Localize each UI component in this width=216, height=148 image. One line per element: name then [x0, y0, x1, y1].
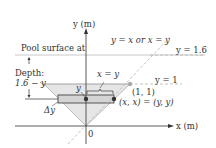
- x-axis-arrow-icon: [168, 124, 174, 128]
- delta-y-label: Δy: [44, 106, 55, 115]
- y-axis-label: y (m): [73, 20, 95, 29]
- diagonal-line-label: y = x or x = y: [111, 36, 170, 45]
- triangular-plate-pool-diagram: y (m) x (m) 0 Pool surface at Depth: 1.6…: [0, 0, 216, 148]
- corner-point-label: (1, 1): [132, 88, 155, 97]
- point-corner-1-1: [128, 82, 132, 86]
- surface-line-label: y = 1.6: [176, 46, 207, 55]
- depth-arrow-up-icon: [28, 57, 31, 60]
- depth-title-label: Depth:: [15, 69, 44, 78]
- pool-surface-label: Pool surface at: [21, 44, 85, 53]
- strip-width-label: x = y: [97, 70, 119, 79]
- strip-point-label: (x, x) = (y, y): [119, 98, 174, 107]
- depth-expression-label: 1.6 − y: [15, 79, 46, 88]
- origin-label: 0: [88, 130, 93, 139]
- y-1-line-label: y = 1: [155, 76, 178, 85]
- y-marker-label: y: [76, 84, 81, 93]
- depth-arrow-down-icon: [28, 95, 31, 98]
- triangle-plate: [44, 84, 130, 126]
- x-axis-label: x (m): [176, 122, 198, 131]
- point-y-on-axis: [84, 97, 88, 101]
- point-strip-end: [112, 97, 116, 101]
